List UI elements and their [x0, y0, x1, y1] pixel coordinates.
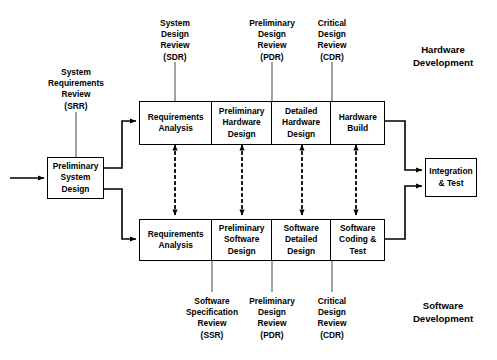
flow-arrow-to-hardware	[104, 121, 136, 168]
review-label-pdr-hardware-text: PreliminaryDesignReview(PDR)	[249, 18, 295, 62]
review-label-sdr: SystemDesignReview(SDR)	[135, 18, 215, 63]
review-label-sdr-text: SystemDesignReview(SDR)	[160, 18, 190, 62]
review-label-pdr-software: PreliminaryDesignReview(PDR)	[234, 296, 310, 341]
review-label-cdr-hardware-text: CriticalDesignReview(CDR)	[318, 18, 347, 62]
preliminary-system-design-label: PreliminarySystemDesign	[53, 161, 99, 194]
review-label-cdr-software: CriticalDesignReview(CDR)	[300, 296, 364, 341]
review-label-pdr-software-text: PreliminaryDesignReview(PDR)	[249, 296, 295, 340]
flow-arrow-hardware-to-integration	[385, 121, 422, 170]
flow-arrow-to-software	[104, 189, 136, 239]
hardware-cell-detailed-hardware-design[interactable]: DetailedHardwareDesign	[272, 102, 332, 144]
software-cell-requirements-analysis[interactable]: RequirementsAnalysis	[140, 220, 212, 260]
software-cell-preliminary-software-design-label: PreliminarySoftwareDesign	[219, 223, 265, 256]
integration-and-test-label: Integration& Test	[429, 166, 472, 188]
section-label-hardware-development-text: HardwareDevelopment	[413, 44, 473, 68]
software-cell-software-detailed-design[interactable]: SoftwareDetailedDesign	[272, 220, 332, 260]
review-label-pdr-hardware: PreliminaryDesignReview(PDR)	[234, 18, 310, 63]
hardware-cell-preliminary-hardware-design[interactable]: PreliminaryHardwareDesign	[212, 102, 272, 144]
software-cell-software-coding-and-test[interactable]: SoftwareCoding &Test	[331, 220, 384, 260]
section-label-hardware-development: HardwareDevelopment	[389, 44, 497, 70]
hardware-cell-hardware-build-label: HardwareBuild	[339, 112, 377, 134]
review-label-cdr-hardware: CriticalDesignReview(CDR)	[300, 18, 364, 63]
process-flow-diagram: PreliminarySystemDesign RequirementsAnal…	[0, 0, 497, 360]
section-label-software-development: SoftwareDevelopment	[389, 300, 497, 326]
preliminary-system-design-box[interactable]: PreliminarySystemDesign	[47, 157, 104, 199]
hardware-development-row: RequirementsAnalysis PreliminaryHardware…	[139, 101, 385, 145]
integration-and-test-box[interactable]: Integration& Test	[425, 158, 477, 197]
hardware-cell-detailed-hardware-design-label: DetailedHardwareDesign	[282, 106, 320, 139]
software-development-row: RequirementsAnalysis PreliminarySoftware…	[139, 219, 385, 261]
software-cell-software-detailed-design-label: SoftwareDetailedDesign	[283, 223, 318, 256]
software-cell-requirements-analysis-label: RequirementsAnalysis	[148, 229, 204, 251]
software-cell-software-coding-and-test-label: SoftwareCoding &Test	[339, 223, 376, 256]
review-label-srr-text: SystemRequirementsReview(SRR)	[48, 67, 104, 111]
hardware-cell-hardware-build[interactable]: HardwareBuild	[331, 102, 384, 144]
hardware-cell-requirements-analysis[interactable]: RequirementsAnalysis	[140, 102, 212, 144]
flow-arrow-software-to-integration	[385, 186, 422, 239]
section-label-software-development-text: SoftwareDevelopment	[413, 300, 473, 324]
hardware-cell-preliminary-hardware-design-label: PreliminaryHardwareDesign	[219, 106, 265, 139]
software-cell-preliminary-software-design[interactable]: PreliminarySoftwareDesign	[212, 220, 272, 260]
review-label-ssr-text: SoftwareSpecificationReview(SSR)	[186, 296, 238, 340]
review-label-srr: SystemRequirementsReview(SRR)	[26, 67, 126, 112]
review-label-cdr-software-text: CriticalDesignReview(CDR)	[318, 296, 347, 340]
hardware-cell-requirements-analysis-label: RequirementsAnalysis	[148, 112, 204, 134]
